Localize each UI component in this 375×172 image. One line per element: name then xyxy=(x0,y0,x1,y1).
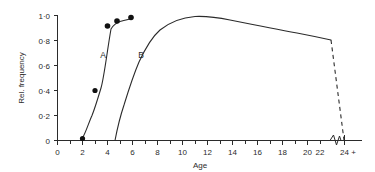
y-tick-label: 0·6 xyxy=(38,62,50,71)
y-tick-label: 0·2 xyxy=(38,112,50,121)
series-b-label: B xyxy=(138,50,144,60)
x-tick-label: 10 xyxy=(178,148,187,157)
rel-frequency-vs-age-chart: 0 0·2 0·4 0·6 0·8 1·0 xyxy=(0,0,375,172)
x-tick-label: 4 xyxy=(105,148,110,157)
x-tick-label: 6 xyxy=(130,148,135,157)
x-tick-label: 8 xyxy=(155,148,160,157)
series-a-label: A xyxy=(100,50,106,60)
datapoint xyxy=(105,23,111,29)
x-tick-label: 0 xyxy=(55,148,60,157)
x-tick-label: 2 xyxy=(80,148,85,157)
datapoint xyxy=(128,15,134,21)
x-tick-label: 14 xyxy=(228,148,237,157)
y-tick-label: 0·8 xyxy=(38,37,50,46)
x-tick-label: 20 xyxy=(303,148,312,157)
x-tick-label: 22 xyxy=(316,148,325,157)
x-tick-label: 12 xyxy=(203,148,212,157)
y-tick-label: 1·0 xyxy=(38,12,50,21)
y-tick-label: 0·4 xyxy=(38,87,50,96)
y-tick-label: 0 xyxy=(46,137,51,146)
datapoint xyxy=(114,18,120,24)
y-axis-title: Rel. frequency xyxy=(17,52,26,104)
x-axis-title: Age xyxy=(193,161,208,170)
datapoint xyxy=(80,136,85,141)
chart-background xyxy=(0,0,375,172)
datapoint xyxy=(92,88,97,93)
x-tick-label: 18 xyxy=(278,148,287,157)
x-tick-label: 16 xyxy=(253,148,262,157)
chart-figure: 0 0·2 0·4 0·6 0·8 1·0 xyxy=(0,0,375,172)
x-tick-label: 24 + xyxy=(340,148,356,157)
